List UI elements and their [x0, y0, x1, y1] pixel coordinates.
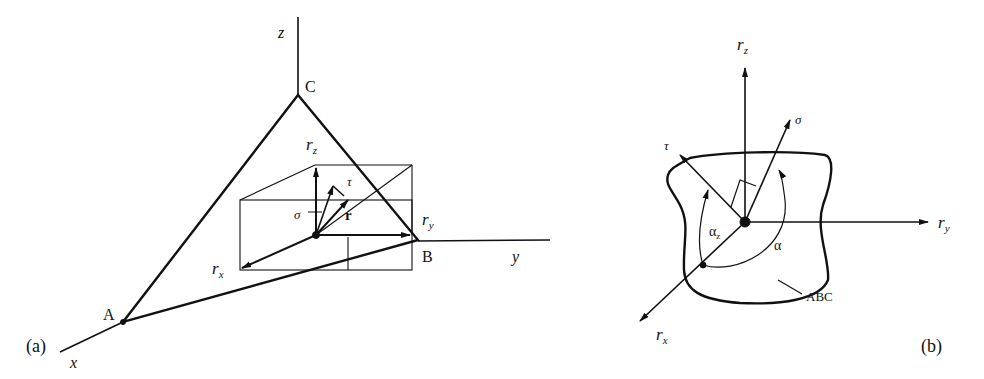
alpha-z-arc — [699, 190, 708, 265]
tau-arrow — [333, 186, 344, 196]
panel-a-labels: z y x C A B rz ry rx r σ τ (a) — [26, 24, 520, 371]
point-c-label: C — [305, 78, 316, 95]
surface-abc-label: ABC — [806, 289, 833, 304]
z-axis-label: z — [277, 24, 285, 41]
rx-intersection-dot — [700, 262, 706, 268]
caption-a: (a) — [26, 336, 46, 357]
point-b-label: B — [422, 248, 433, 265]
r-arrow — [316, 200, 348, 235]
triangle-abc — [123, 95, 418, 322]
point-a-dot — [121, 320, 126, 325]
stress-box — [240, 165, 412, 270]
rx-arrow-b — [640, 222, 745, 321]
ry-label-b: ry — [938, 213, 950, 234]
rx-arrow — [242, 235, 316, 268]
panel-b-labels: rz ry rx σ τ αz α ABC (b) — [656, 35, 950, 357]
tau-arrow-b — [680, 155, 745, 222]
sigma-arrow — [316, 186, 333, 235]
sigma-label-b: σ — [795, 112, 802, 127]
sigma-arrow-b — [745, 120, 790, 222]
tau-label: τ — [347, 174, 353, 189]
panel-b — [640, 68, 928, 321]
surface-abc — [667, 152, 831, 303]
rx-label-b: rx — [656, 325, 668, 346]
center-dot-b — [740, 217, 750, 227]
stress-diagram: z y x C A B rz ry rx r σ τ (a) rz ry rx … — [0, 0, 984, 379]
caption-b: (b) — [921, 336, 942, 357]
y-axis-label: y — [510, 248, 520, 266]
right-angle-mark — [731, 180, 756, 207]
rz-label-b: rz — [737, 35, 749, 56]
origin-dot — [313, 232, 320, 239]
abc-leader — [778, 280, 802, 294]
panel-a — [60, 17, 550, 352]
tau-label-b: τ — [664, 138, 670, 153]
ry-label: ry — [422, 210, 434, 231]
alpha-label: α — [774, 238, 782, 253]
point-a-label: A — [103, 306, 115, 323]
x-axis-label: x — [69, 354, 77, 371]
sigma-label: σ — [294, 207, 301, 222]
r-label: r — [345, 207, 352, 223]
rx-label: rx — [212, 259, 224, 280]
x-axis — [60, 322, 123, 352]
y-axis — [418, 240, 550, 241]
rz-label: rz — [306, 135, 318, 156]
alpha-z-label: αz — [709, 224, 720, 241]
